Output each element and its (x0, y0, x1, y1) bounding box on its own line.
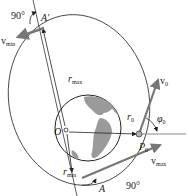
v-max-label: vmax (151, 155, 166, 167)
r0-label: r0 (127, 111, 134, 123)
apogee-label: A′ (40, 12, 50, 23)
r-max-label: rmax (68, 73, 82, 85)
launch-point-p0 (136, 131, 142, 137)
perigee-label: A (98, 183, 106, 194)
angle-label-bottom: 90° (126, 180, 140, 191)
p0-label: P0 (138, 141, 148, 153)
r-max-vector (43, 29, 65, 126)
angle-arc-bottom (82, 179, 96, 185)
r-min-label: rmin (63, 166, 76, 178)
focus-point-o (64, 128, 68, 132)
v0-label: v0 (160, 75, 168, 87)
angle-arc-top (30, 12, 36, 24)
phi0-label: φ0 (157, 113, 166, 125)
focus-label: O (54, 126, 61, 137)
v-min-label: vmin (1, 35, 15, 47)
orbit-diagram: 90° A′ vmin rmax v0 O r0 φ0 P0 vmax rmin… (0, 0, 189, 196)
angle-label-top: 90° (11, 10, 25, 21)
